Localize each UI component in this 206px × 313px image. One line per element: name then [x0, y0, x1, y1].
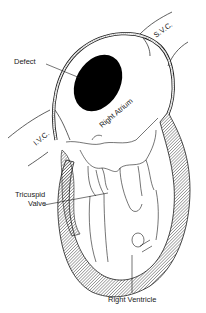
label-tricuspid-line2: Valve — [28, 199, 46, 208]
label-tricuspid-line1: Tricuspid — [15, 190, 45, 199]
heart-illustration: Defect S.V.C. I.V.C. Right Atrium Tricus… — [0, 0, 206, 313]
label-right-ventricle: Right Ventricle — [108, 295, 156, 304]
defect-leader — [46, 64, 80, 78]
papillary-muscle — [132, 233, 152, 252]
ventricle-wall — [58, 112, 190, 297]
label-defect: Defect — [14, 57, 37, 66]
label-ivc: I.V.C. — [32, 129, 52, 148]
heart-diagram: Defect S.V.C. I.V.C. Right Atrium Tricus… — [0, 0, 206, 313]
label-svc: S.V.C. — [152, 20, 174, 40]
tricuspid-leader — [44, 193, 108, 205]
